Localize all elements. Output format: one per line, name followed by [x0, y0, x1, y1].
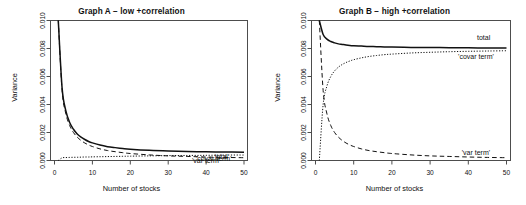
- panel-b-series-labels: total 'covar term' 'var term': [458, 34, 494, 156]
- panel-b-y-ticks: [308, 21, 312, 161]
- panel-b-ytick-4: 0.008: [300, 40, 307, 57]
- panel-b-label-total: total: [477, 34, 491, 41]
- figure-two-panel-variance-plots: Graph A − low +correlation Variance Numb…: [0, 0, 526, 205]
- panel-b-xtick-4: 40: [465, 169, 473, 176]
- panel-a-ytick-3: 0.006: [39, 68, 46, 85]
- panel-a-ytick-0: 0.000: [39, 152, 46, 169]
- plot-panel-b: Graph B − high +correlation Variance Num…: [263, 0, 526, 205]
- panel-a-ytick-5: 0.010: [39, 12, 46, 29]
- panel-b-xtick-2: 20: [388, 169, 396, 176]
- panel-a-xtick-3: 30: [165, 169, 173, 176]
- panel-b-y-tick-labels: 0.000 0.002 0.004 0.006 0.008 0.010: [300, 12, 307, 169]
- panel-a-ytick-1: 0.002: [39, 124, 46, 141]
- panel-a-ytick-4: 0.008: [39, 40, 46, 57]
- panel-a-xtick-2: 20: [127, 169, 135, 176]
- panel-a-series-labels: total 'covar term' 'var term': [192, 153, 232, 164]
- panel-b-ytick-5: 0.010: [300, 12, 307, 29]
- panel-a-ytick-2: 0.004: [39, 96, 46, 113]
- panel-b-ytick-2: 0.004: [300, 96, 307, 113]
- panel-b-xtick-1: 10: [350, 169, 358, 176]
- panel-b-xtick-0: 0: [314, 169, 318, 176]
- panel-b-ytick-0: 0.000: [300, 152, 307, 169]
- panel-a-xtick-0: 0: [53, 169, 57, 176]
- panel-b-label-covar-term: 'covar term': [458, 53, 494, 60]
- panel-b-x-ticks: [316, 161, 507, 165]
- panel-a-plot-area: 0.000 0.002 0.004 0.006 0.008 0.010 0 10…: [0, 0, 263, 205]
- plot-panel-a: Graph A − low +correlation Variance Numb…: [0, 0, 263, 205]
- panel-b-curve-var-term: [319, 21, 506, 158]
- panel-b-plot-area: 0.000 0.002 0.004 0.006 0.008 0.010 0 10…: [263, 0, 526, 205]
- panel-a-xtick-1: 10: [89, 169, 97, 176]
- panel-b-curves: [319, 21, 506, 161]
- panel-a-y-tick-labels: 0.000 0.002 0.004 0.006 0.008 0.010: [39, 12, 46, 169]
- panel-a-curves: [58, 21, 244, 161]
- panel-b-x-tick-labels: 0 10 20 30 40 50: [314, 169, 511, 176]
- panel-a-x-tick-labels: 0 10 20 30 40 50: [53, 169, 248, 176]
- panel-b-xtick-3: 30: [426, 169, 434, 176]
- panel-b-ytick-3: 0.006: [300, 68, 307, 85]
- panel-a-xtick-5: 50: [240, 169, 248, 176]
- panel-b-ytick-1: 0.002: [300, 124, 307, 141]
- panel-a-xtick-4: 40: [202, 169, 210, 176]
- panel-a-y-ticks: [47, 21, 51, 161]
- panel-b-label-var-term: 'var term': [462, 149, 490, 156]
- panel-a-curve-var-term: [58, 21, 244, 158]
- panel-a-curve-total: [58, 21, 244, 153]
- panel-a-label-var-term: 'var term': [192, 157, 220, 164]
- panel-b-xtick-5: 50: [503, 169, 511, 176]
